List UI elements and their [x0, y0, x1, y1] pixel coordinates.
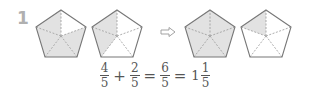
right-outline-arrow-icon	[160, 27, 176, 37]
fraction-sum: 65	[160, 62, 170, 89]
pentagon-figure-4	[239, 9, 293, 59]
problem-number: 1	[17, 8, 29, 28]
pentagon-figure-3	[183, 9, 237, 59]
plus-sign: +	[113, 67, 126, 85]
equals-sign: =	[144, 67, 157, 85]
equals-sign: =	[174, 67, 187, 85]
fraction-equation: 45 + 25 = 65 = 1 15	[0, 62, 310, 89]
fraction-b: 25	[130, 62, 140, 89]
pentagon-figure-2	[90, 9, 144, 59]
pentagon-figure-1	[34, 9, 88, 59]
fraction-a: 45	[100, 62, 110, 89]
mixed-whole: 1	[191, 68, 199, 83]
mixed-fraction: 15	[201, 62, 211, 89]
